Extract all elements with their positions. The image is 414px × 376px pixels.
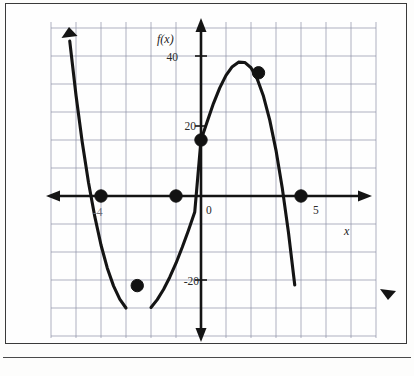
y-axis-label: f(x) [157,32,174,46]
curve-lower-right-arrowhead [380,289,396,300]
y-tick-label-20: 20 [185,120,197,132]
point-local-minimum [131,279,143,291]
y-tick-label-40: 40 [167,51,179,63]
y-tick-label-neg20: -20 [184,275,200,287]
x-tick-label-5: 5 [313,204,319,216]
cubic-function-graph: f(x) x 40 20 -20 0 5 -4 [0,0,414,376]
function-curve [70,41,295,308]
x-axis-right-arrowhead [358,191,372,202]
grid-horizontal-lines [51,28,376,336]
grid-vertical-lines [51,22,376,338]
x-axis-left-arrowhead [46,191,60,202]
point-x-intercept-right [295,190,307,202]
x-tick-label-origin: 0 [206,204,212,216]
graph-plot-area: f(x) x 40 20 -20 0 5 -4 [0,0,414,376]
curve-upper-left-arrowhead [62,27,78,38]
y-axis-top-arrowhead [196,18,207,32]
point-x-intercept-middle [170,190,182,202]
y-axis-bottom-arrowhead [196,328,207,342]
x-axis-label: x [343,224,350,238]
point-x-intercept-left [95,190,107,202]
curve-end-arrowheads [62,27,397,300]
point-local-maximum [252,67,264,79]
page-root: f(x) x 40 20 -20 0 5 -4 [0,0,414,376]
x-tick-label-neg4: -4 [93,206,103,218]
point-y-intercept [195,134,207,146]
bottom-divider-rule [3,357,411,358]
